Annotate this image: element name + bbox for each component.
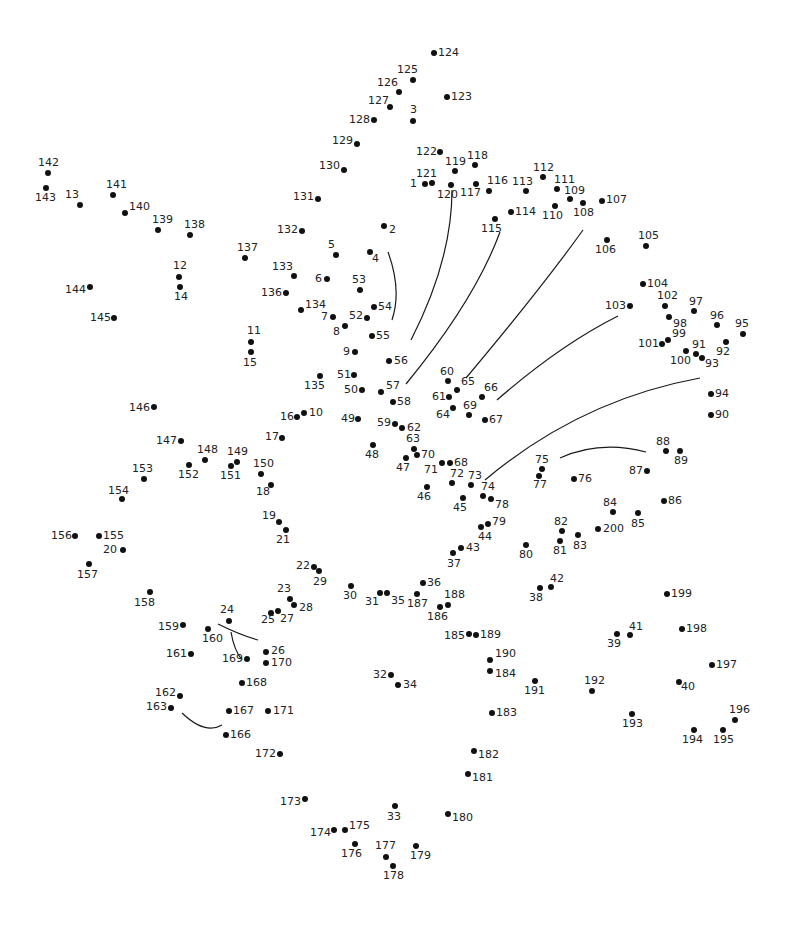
dot-point[interactable] bbox=[342, 827, 348, 833]
dot-point[interactable] bbox=[437, 149, 443, 155]
dot-point[interactable] bbox=[488, 496, 494, 502]
dot-point[interactable] bbox=[258, 471, 264, 477]
dot-point[interactable] bbox=[202, 457, 208, 463]
dot-point[interactable] bbox=[45, 170, 51, 176]
dot-point[interactable] bbox=[392, 803, 398, 809]
dot-point[interactable] bbox=[333, 252, 339, 258]
dot-point[interactable] bbox=[447, 460, 453, 466]
dot-point[interactable] bbox=[508, 209, 514, 215]
dot-point[interactable] bbox=[188, 651, 194, 657]
dot-point[interactable] bbox=[635, 510, 641, 516]
dot-point[interactable] bbox=[187, 232, 193, 238]
dot-point[interactable] bbox=[466, 631, 472, 637]
dot-point[interactable] bbox=[341, 167, 347, 173]
dot-point[interactable] bbox=[663, 448, 669, 454]
dot-point[interactable] bbox=[299, 228, 305, 234]
dot-point[interactable] bbox=[294, 414, 300, 420]
dot-point[interactable] bbox=[480, 493, 486, 499]
dot-point[interactable] bbox=[277, 751, 283, 757]
dot-point[interactable] bbox=[431, 50, 437, 56]
dot-point[interactable] bbox=[315, 196, 321, 202]
dot-point[interactable] bbox=[381, 223, 387, 229]
dot-point[interactable] bbox=[371, 117, 377, 123]
dot-point[interactable] bbox=[466, 412, 472, 418]
dot-point[interactable] bbox=[666, 314, 672, 320]
dot-point[interactable] bbox=[575, 532, 581, 538]
dot-point[interactable] bbox=[559, 528, 565, 534]
dot-point[interactable] bbox=[386, 358, 392, 364]
dot-point[interactable] bbox=[352, 349, 358, 355]
dot-point[interactable] bbox=[482, 417, 488, 423]
dot-point[interactable] bbox=[640, 281, 646, 287]
dot-point[interactable] bbox=[714, 322, 720, 328]
dot-point[interactable] bbox=[87, 284, 93, 290]
dot-point[interactable] bbox=[589, 688, 595, 694]
dot-point[interactable] bbox=[661, 498, 667, 504]
dot-point[interactable] bbox=[359, 387, 365, 393]
dot-point[interactable] bbox=[291, 602, 297, 608]
dot-point[interactable] bbox=[371, 304, 377, 310]
dot-point[interactable] bbox=[420, 580, 426, 586]
dot-point[interactable] bbox=[485, 521, 491, 527]
dot-point[interactable] bbox=[223, 732, 229, 738]
dot-point[interactable] bbox=[414, 452, 420, 458]
dot-point[interactable] bbox=[643, 243, 649, 249]
dot-point[interactable] bbox=[523, 188, 529, 194]
dot-point[interactable] bbox=[450, 405, 456, 411]
dot-point[interactable] bbox=[691, 308, 697, 314]
dot-point[interactable] bbox=[410, 118, 416, 124]
dot-point[interactable] bbox=[265, 708, 271, 714]
dot-point[interactable] bbox=[732, 717, 738, 723]
dot-point[interactable] bbox=[141, 476, 147, 482]
dot-point[interactable] bbox=[665, 337, 671, 343]
dot-point[interactable] bbox=[399, 425, 405, 431]
dot-point[interactable] bbox=[86, 561, 92, 567]
dot-point[interactable] bbox=[110, 192, 116, 198]
dot-point[interactable] bbox=[473, 632, 479, 638]
dot-point[interactable] bbox=[610, 509, 616, 515]
dot-point[interactable] bbox=[342, 323, 348, 329]
dot-point[interactable] bbox=[439, 460, 445, 466]
dot-point[interactable] bbox=[355, 416, 361, 422]
dot-point[interactable] bbox=[445, 378, 451, 384]
dot-point[interactable] bbox=[487, 668, 493, 674]
dot-point[interactable] bbox=[248, 349, 254, 355]
dot-point[interactable] bbox=[709, 662, 715, 668]
dot-point[interactable] bbox=[465, 771, 471, 777]
dot-point[interactable] bbox=[77, 202, 83, 208]
dot-point[interactable] bbox=[72, 533, 78, 539]
dot-point[interactable] bbox=[177, 693, 183, 699]
dot-point[interactable] bbox=[301, 410, 307, 416]
dot-point[interactable] bbox=[357, 287, 363, 293]
dot-point[interactable] bbox=[378, 389, 384, 395]
dot-point[interactable] bbox=[540, 174, 546, 180]
dot-point[interactable] bbox=[369, 333, 375, 339]
dot-point[interactable] bbox=[644, 468, 650, 474]
dot-point[interactable] bbox=[147, 589, 153, 595]
dot-point[interactable] bbox=[263, 649, 269, 655]
dot-point[interactable] bbox=[449, 480, 455, 486]
dot-point[interactable] bbox=[283, 290, 289, 296]
dot-point[interactable] bbox=[599, 198, 605, 204]
dot-point[interactable] bbox=[302, 796, 308, 802]
dot-point[interactable] bbox=[244, 656, 250, 662]
dot-point[interactable] bbox=[388, 672, 394, 678]
dot-point[interactable] bbox=[489, 710, 495, 716]
dot-point[interactable] bbox=[454, 387, 460, 393]
dot-point[interactable] bbox=[331, 827, 337, 833]
dot-point[interactable] bbox=[120, 547, 126, 553]
dot-point[interactable] bbox=[364, 315, 370, 321]
dot-point[interactable] bbox=[664, 591, 670, 597]
dot-point[interactable] bbox=[176, 274, 182, 280]
dot-point[interactable] bbox=[445, 811, 451, 817]
dot-point[interactable] bbox=[155, 227, 161, 233]
dot-point[interactable] bbox=[226, 618, 232, 624]
dot-point[interactable] bbox=[571, 476, 577, 482]
dot-point[interactable] bbox=[180, 622, 186, 628]
dot-point[interactable] bbox=[234, 459, 240, 465]
dot-point[interactable] bbox=[429, 180, 435, 186]
dot-point[interactable] bbox=[410, 77, 416, 83]
dot-point[interactable] bbox=[298, 307, 304, 313]
dot-point[interactable] bbox=[316, 568, 322, 574]
dot-point[interactable] bbox=[226, 708, 232, 714]
